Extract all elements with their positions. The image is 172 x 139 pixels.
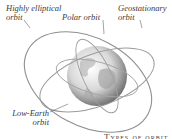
label-highly-elliptical-orbit: Highly elliptical orbit bbox=[6, 4, 61, 22]
diagram-caption: Types of orbit bbox=[104, 132, 168, 139]
label-polar-orbit: Polar orbit bbox=[62, 13, 100, 22]
label-line: orbit bbox=[6, 13, 61, 22]
label-geostationary-orbit: Geostationary orbit bbox=[118, 4, 167, 22]
label-low-earth-orbit: Low-Earth orbit bbox=[5, 109, 49, 127]
label-line: orbit bbox=[118, 13, 167, 22]
label-line: orbit bbox=[5, 118, 49, 127]
